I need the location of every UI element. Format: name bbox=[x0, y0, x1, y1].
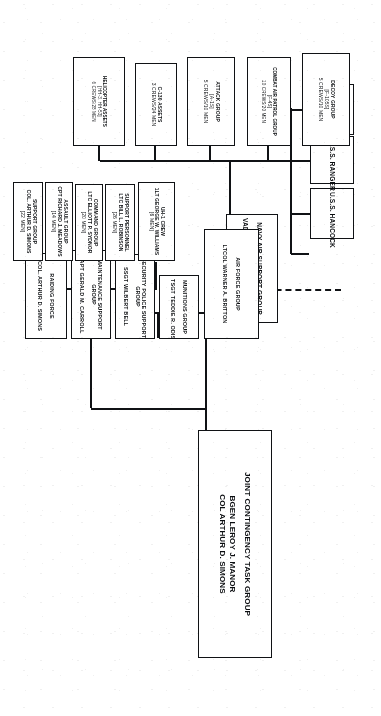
uss-ranger-title: U.S.S. RANGER bbox=[328, 140, 336, 180]
box-raiding-force[interactable]: RAIDING FORCE COL. ARTHUR D. SIMONS bbox=[25, 253, 67, 339]
attack-strength: 5 CREWS/10 MEN bbox=[202, 61, 208, 142]
munitions-leader: TSGT TEDDIE R. ODIS bbox=[170, 279, 176, 335]
afg-title: AIR FORCE GROUP bbox=[235, 233, 241, 335]
supgroup-strength: [22 MEN] bbox=[19, 186, 25, 257]
cap-strength: 10 CREWS/20 MEN bbox=[261, 61, 266, 142]
secpol-title-2: GROUP bbox=[135, 258, 141, 335]
jctg-title: JOINT CONTINGENCY TASK GROUP bbox=[243, 434, 252, 654]
chart-stage: U.S.S. HANCOCK U.S.S. RANGER U.S.S. ORIS… bbox=[0, 0, 381, 716]
assault-strength: [14 MEN] bbox=[50, 186, 56, 257]
decoy-strength: 5 CREWS/10 MEN bbox=[317, 57, 323, 142]
helo-title: HELICOPTER ASSETS bbox=[102, 61, 107, 142]
raiding-leader: COL. ARTHUR D. SIMONS bbox=[37, 257, 43, 335]
raiding-title: RAIDING FORCE bbox=[49, 257, 55, 335]
box-joint-contingency-task-group[interactable]: JOINT CONTINGENCY TASK GROUP BGEN LEROY … bbox=[198, 430, 272, 658]
connector-air-helo bbox=[99, 146, 101, 161]
chart-canvas: U.S.S. HANCOCK U.S.S. RANGER U.S.S. ORIS… bbox=[0, 0, 381, 716]
box-attack-group[interactable]: ATTACK GROUP [A-1S] 5 CREWS/10 MEN bbox=[187, 57, 235, 146]
cap-aircraft: [F-4S] bbox=[266, 61, 271, 142]
command-strength: [20 MEN] bbox=[80, 188, 86, 257]
decoy-aircraft: [F-105S] bbox=[323, 57, 329, 142]
suppers-strength: [26 MEN] bbox=[111, 188, 117, 257]
box-command-group[interactable]: COMMAND GROUP LTC ELLIOTT P. SYDNOR [20 … bbox=[75, 184, 103, 261]
helo-aircraft: [HH-3, HH-53] bbox=[96, 61, 101, 142]
connector-jctg-to-afg bbox=[206, 338, 208, 408]
supgroup-leader: COL. ARTHUR D. SIMONS bbox=[25, 186, 31, 257]
c130-strength: 3 CREWS/24 MEN bbox=[150, 67, 156, 142]
maint-title-2: GROUP bbox=[91, 254, 97, 335]
attack-aircraft: [A-1S] bbox=[208, 61, 214, 142]
uss-hancock-title: U.S.S. HANCOCK bbox=[328, 192, 336, 235]
helo-strength: 6 CREWS/28 MEN bbox=[91, 61, 96, 142]
box-maintenance-support-group[interactable]: MAINTENANCE SUPPORT GROUP CAPT GERALD M.… bbox=[71, 250, 111, 339]
jctg-leader-1: BGEN LEROY J. MANOR bbox=[227, 434, 236, 654]
connector-jctg-to-raiding bbox=[91, 338, 93, 408]
box-combat-air-patrol-group[interactable]: COMBAT AIR PATROL GROUP [F-4S] 10 CREWS/… bbox=[247, 57, 291, 146]
connector-navy-stem bbox=[291, 253, 309, 255]
box-helicopter-assets[interactable]: HELICOPTER ASSETS [HH-3, HH-53] 6 CREWS/… bbox=[73, 57, 125, 146]
afg-leader: LTCOL WARNER A. BRITTON bbox=[222, 233, 228, 335]
box-uh1-crew[interactable]: UH-1 CREW 1LT GEORGE W. WILLIAMS [6 MEN] bbox=[138, 182, 175, 261]
box-support-group[interactable]: SUPPORT GROUP COL. ARTHUR D. SIMONS [22 … bbox=[13, 182, 43, 261]
jctg-leader-2: COL ARTHUR D. SIMONS bbox=[218, 434, 227, 654]
uh1-title: UH-1 CREW bbox=[159, 186, 165, 257]
connector-airassets-bus bbox=[100, 160, 326, 162]
connector-raiding-uh1 bbox=[156, 262, 158, 289]
secpol-leader: SSGT WILBERT BELL bbox=[123, 258, 129, 335]
connector-jctg-trunk bbox=[206, 408, 208, 430]
assault-leader: CPT RICHARD J. MEADOWS bbox=[56, 186, 62, 257]
box-security-police-support-group[interactable]: SECURITY POLICE SUPPORT GROUP SSGT WILBE… bbox=[115, 254, 155, 339]
cap-title: COMBAT AIR PATROL GROUP bbox=[272, 61, 277, 142]
connector-air-attack bbox=[210, 146, 212, 161]
box-decoy-group[interactable]: DECOY GROUP [F-105S] 5 CREWS/10 MEN bbox=[302, 53, 350, 146]
connector-air-c130 bbox=[155, 146, 157, 161]
secpol-title-1: SECURITY POLICE SUPPORT bbox=[141, 258, 147, 335]
maint-title-1: MAINTENANCE SUPPORT bbox=[97, 254, 103, 335]
box-munitions-group[interactable]: MUNITIONS GROUP TSGT TEDDIE R. ODIS bbox=[159, 275, 199, 339]
uh1-strength: [6 MEN] bbox=[148, 186, 154, 257]
connector-jctg-main-bus bbox=[91, 408, 207, 410]
suppers-leader: LTC BILL L. ROBINSON bbox=[117, 188, 123, 257]
box-support-personnel[interactable]: SUPPORT PERSONNEL LTC BILL L. ROBINSON [… bbox=[105, 184, 135, 261]
munitions-title: MUNITIONS GROUP bbox=[182, 279, 188, 335]
connector-air-cap bbox=[268, 146, 270, 161]
box-uss-hancock[interactable]: U.S.S. HANCOCK bbox=[310, 188, 354, 239]
connector-ship-hancock bbox=[291, 213, 310, 215]
box-c130-assets[interactable]: C-130 ASSETS 3 CREWS/24 MEN bbox=[135, 63, 177, 146]
box-air-force-group[interactable]: AIR FORCE GROUP LTCOL WARNER A. BRITTON bbox=[204, 229, 259, 339]
box-assault-group[interactable]: ASSAULT GROUP CPT RICHARD J. MEADOWS [14… bbox=[45, 182, 73, 261]
maint-leader: CAPT GERALD M. CARROLL bbox=[79, 254, 85, 335]
command-leader: LTC ELLIOTT P. SYDNOR bbox=[86, 188, 92, 257]
